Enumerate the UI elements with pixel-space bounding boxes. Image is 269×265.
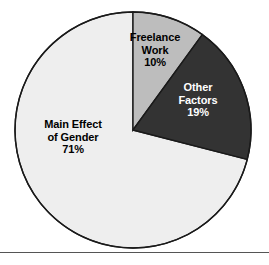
pie-chart-figure: Freelance Work 10% Other Factors 19% Mai… [0,0,269,265]
pie-chart-graphic [0,0,269,265]
pie-slices [15,12,251,248]
figure-bottom-rule [0,252,269,253]
